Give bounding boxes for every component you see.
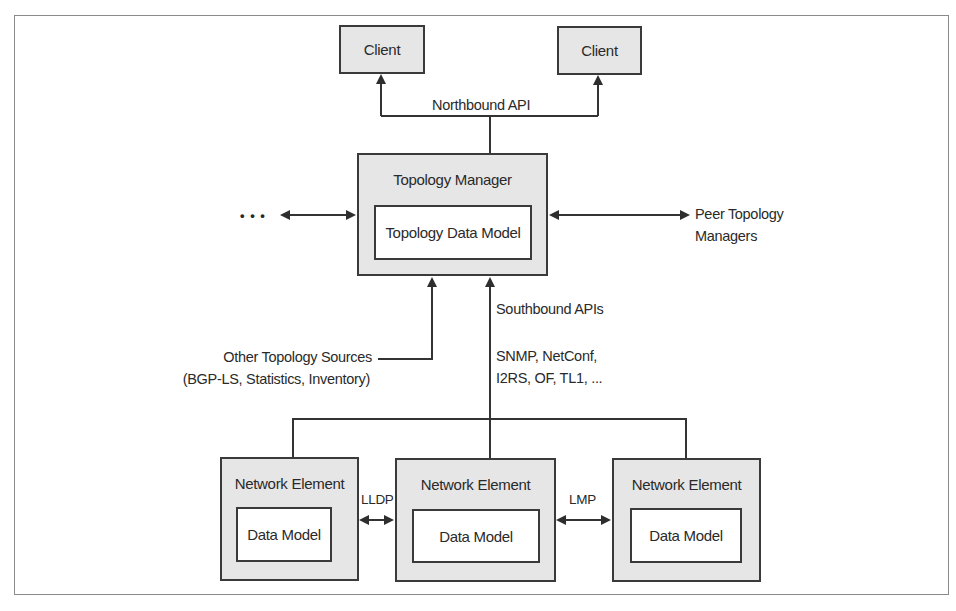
peer-topology-label-line1: Peer Topology	[695, 205, 784, 224]
network-element-title: Network Element	[614, 476, 759, 493]
lmp-link-label: LMP	[569, 490, 596, 509]
topology-manager-title: Topology Manager	[359, 171, 546, 188]
data-model-label: Data Model	[439, 528, 513, 545]
protocols-label-line2: I2RS, OF, TL1, ...	[496, 369, 602, 388]
data-model-label: Data Model	[247, 526, 321, 543]
data-model-box: Data Model	[236, 507, 332, 562]
client-box-1: Client	[339, 25, 425, 74]
ellipsis-more-sources: • • •	[240, 206, 266, 225]
network-element-title: Network Element	[397, 476, 554, 493]
network-element-box-2: Network Element Data Model	[395, 458, 556, 582]
lldp-link-label: LLDP	[361, 490, 394, 509]
other-sources-label-line2: (BGP-LS, Statistics, Inventory)	[183, 370, 370, 389]
client-label: Client	[581, 42, 618, 59]
network-element-title: Network Element	[222, 475, 357, 492]
network-element-box-1: Network Element Data Model	[220, 457, 359, 581]
data-model-box: Data Model	[630, 508, 742, 563]
other-sources-label-line1: Other Topology Sources	[223, 348, 372, 367]
topology-data-model-box: Topology Data Model	[374, 205, 532, 260]
topology-data-model-label: Topology Data Model	[385, 224, 520, 241]
topology-manager-box: Topology Manager Topology Data Model	[357, 153, 548, 276]
client-label: Client	[364, 41, 401, 58]
client-box-2: Client	[557, 26, 642, 75]
southbound-apis-label: Southbound APIs	[496, 300, 604, 319]
peer-topology-label-line2: Managers	[695, 227, 757, 246]
network-element-box-3: Network Element Data Model	[612, 458, 761, 582]
protocols-label-line1: SNMP, NetConf,	[496, 347, 597, 366]
data-model-label: Data Model	[649, 527, 723, 544]
northbound-api-label: Northbound API	[432, 96, 530, 115]
data-model-box: Data Model	[412, 509, 540, 563]
